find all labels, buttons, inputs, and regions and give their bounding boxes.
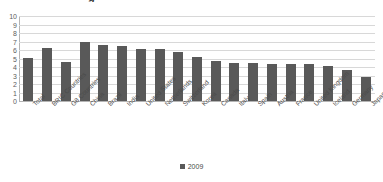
- x-tick-label: France: [295, 103, 300, 108]
- x-tick-label: Germany: [351, 103, 356, 108]
- x-tick-label: Korea: [201, 103, 206, 108]
- x-tick-label: G8 Countries: [70, 103, 75, 108]
- y-tick-label: 5: [13, 55, 17, 62]
- y-tick-label: 8: [13, 30, 17, 37]
- bar-chart: g 109876543210 TotalBRIC CountriesG8 Cou…: [0, 0, 383, 182]
- y-axis: 109876543210: [2, 12, 17, 104]
- legend-swatch: [180, 164, 185, 169]
- x-tick-label: Total: [32, 103, 37, 108]
- bar[interactable]: [136, 49, 146, 101]
- y-tick-label: 2: [13, 81, 17, 88]
- x-tick-label: Brazil: [107, 103, 112, 108]
- y-tick-label: 6: [13, 47, 17, 54]
- x-tick-label: India: [126, 103, 131, 108]
- y-tick-label: 1: [13, 89, 17, 96]
- x-tick-label: BRIC Countries: [51, 103, 56, 108]
- x-tick-label: Spain: [257, 103, 262, 108]
- bar-slot: [131, 16, 150, 101]
- x-tick-label: China: [89, 103, 94, 108]
- bar-slot: [244, 16, 263, 101]
- y-tick-label: 9: [13, 21, 17, 28]
- y-tick-label: 3: [13, 72, 17, 79]
- bar-slot: [19, 16, 38, 101]
- chart-title-clipped: g: [88, 0, 122, 2]
- bar-slot: [38, 16, 57, 101]
- bar-slot: [94, 16, 113, 101]
- x-tick-label: Austria: [276, 103, 281, 108]
- bar[interactable]: [23, 58, 33, 101]
- y-tick-label: 0: [13, 98, 17, 105]
- x-tick-label: Netherlands: [164, 103, 169, 108]
- x-tick-label: United States: [145, 103, 150, 108]
- x-tick-label: United Kingdom: [313, 103, 318, 108]
- y-tick-label: 7: [13, 38, 17, 45]
- x-tick-label: Iceland: [332, 103, 337, 108]
- x-axis-labels: TotalBRIC CountriesG8 CountriesChinaBraz…: [19, 101, 375, 157]
- x-tick-label: Canada: [220, 103, 225, 108]
- y-tick-label: 10: [9, 13, 17, 20]
- legend: 2009: [0, 163, 383, 170]
- y-tick-label: 4: [13, 64, 17, 71]
- bar-slot: [206, 16, 225, 101]
- bar-slot: [281, 16, 300, 101]
- bar-slot: [113, 16, 132, 101]
- bar-slot: [263, 16, 282, 101]
- x-tick-label: Italy: [238, 103, 243, 108]
- x-tick-label: Switzerland: [182, 103, 187, 108]
- bar[interactable]: [248, 63, 258, 101]
- x-tick-label: Japan: [370, 103, 375, 108]
- legend-label[interactable]: 2009: [188, 163, 204, 170]
- bar[interactable]: [42, 48, 52, 101]
